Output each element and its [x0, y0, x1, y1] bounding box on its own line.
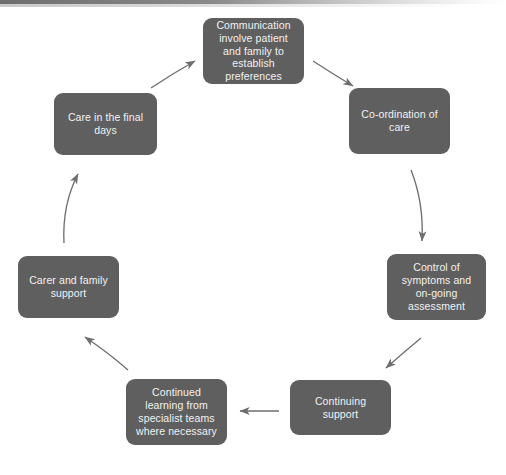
arrow-control-to-continuing	[386, 338, 421, 368]
node-control-of-symptoms-label: Control of symptoms and on-going assessm…	[393, 261, 480, 312]
diagram-canvas: Communication involve patient and family…	[0, 0, 506, 475]
page-top-band-shadow	[0, 4, 506, 7]
node-care-in-final-days[interactable]: Care in the final days	[54, 93, 157, 155]
node-carer-and-family-support-label: Carer and family support	[24, 274, 113, 300]
arrow-communication-to-coordination	[313, 61, 353, 86]
node-continuing-support[interactable]: Continuing support	[290, 380, 391, 435]
node-communication-label: Communication involve patient and family…	[209, 19, 298, 83]
node-care-in-final-days-label: Care in the final days	[60, 111, 151, 137]
node-coordination[interactable]: Co-ordination of care	[349, 88, 450, 154]
node-communication[interactable]: Communication involve patient and family…	[203, 18, 304, 84]
node-continued-learning[interactable]: Continued learning from specialist teams…	[126, 379, 227, 445]
arrow-final-days-to-communication	[151, 61, 195, 88]
node-coordination-label: Co-ordination of care	[355, 108, 444, 134]
node-control-of-symptoms[interactable]: Control of symptoms and on-going assessm…	[387, 254, 486, 320]
node-carer-and-family-support[interactable]: Carer and family support	[18, 256, 119, 318]
arrow-learning-to-carer	[85, 337, 128, 370]
node-continued-learning-label: Continued learning from specialist teams…	[132, 386, 221, 437]
arrow-coordination-to-control	[411, 170, 422, 241]
arrow-carer-to-final-days	[64, 174, 78, 243]
node-continuing-support-label: Continuing support	[296, 395, 385, 421]
